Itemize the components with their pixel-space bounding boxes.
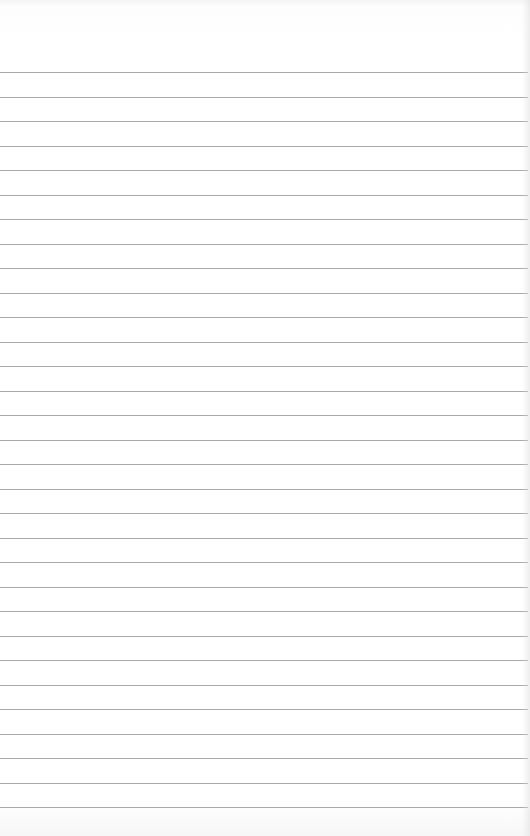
ruled-line (0, 734, 528, 735)
ruled-line (0, 219, 528, 220)
ruled-line (0, 293, 528, 294)
ruled-line (0, 121, 528, 122)
ruled-line (0, 660, 528, 661)
ruled-line (0, 72, 528, 73)
ruled-line (0, 587, 528, 588)
ruled-line (0, 317, 528, 318)
ruled-line (0, 391, 528, 392)
ruled-line (0, 685, 528, 686)
ruled-line (0, 611, 528, 612)
ruled-line (0, 489, 528, 490)
lined-paper-sheet (0, 0, 530, 836)
ruled-line (0, 97, 528, 98)
ruled-line (0, 195, 528, 196)
ruled-line (0, 538, 528, 539)
ruled-line (0, 636, 528, 637)
ruled-line (0, 268, 528, 269)
ruled-line (0, 783, 528, 784)
ruled-line (0, 342, 528, 343)
ruled-line (0, 170, 528, 171)
ruled-line (0, 709, 528, 710)
ruled-line (0, 366, 528, 367)
ruled-line (0, 464, 528, 465)
ruled-line (0, 146, 528, 147)
ruled-line (0, 562, 528, 563)
ruled-line (0, 758, 528, 759)
ruled-line (0, 513, 528, 514)
ruled-line (0, 244, 528, 245)
ruled-line (0, 415, 528, 416)
ruled-line (0, 440, 528, 441)
ruled-line (0, 807, 528, 808)
